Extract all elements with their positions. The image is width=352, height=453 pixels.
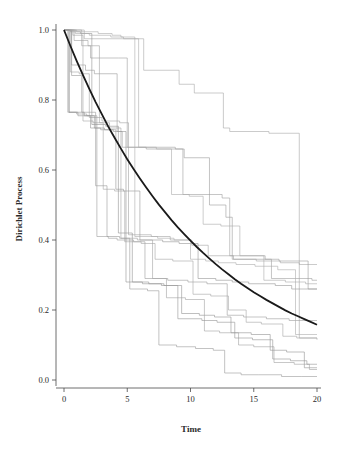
y-axis-label: Dirichlet Process — [14, 176, 24, 242]
dirichlet-process-chart: 05101520 0.00.20.40.60.81.0 Time Dirichl… — [0, 0, 352, 453]
x-tick-label: 10 — [186, 394, 195, 404]
chart-figure: 05101520 0.00.20.40.60.81.0 Time Dirichl… — [0, 0, 352, 453]
y-tick-label: 0.6 — [38, 165, 49, 175]
y-tick-label: 0.2 — [38, 305, 49, 315]
x-tick-label: 0 — [62, 394, 66, 404]
x-tick-label: 5 — [125, 394, 129, 404]
y-tick-label: 0.0 — [38, 375, 49, 385]
y-tick-label: 1.0 — [38, 25, 49, 35]
y-tick-label: 0.8 — [38, 95, 49, 105]
x-tick-label: 15 — [250, 394, 259, 404]
x-axis-label: Time — [181, 424, 201, 434]
x-tick-label: 20 — [313, 394, 322, 404]
y-tick-label: 0.4 — [38, 235, 49, 245]
